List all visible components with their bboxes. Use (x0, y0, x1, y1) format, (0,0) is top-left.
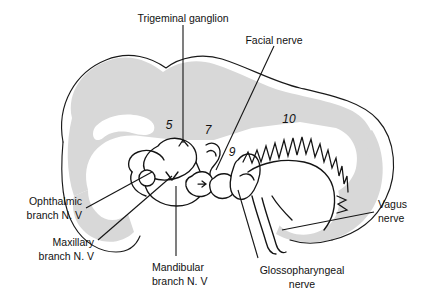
label-vagus-nerve-line1: Vagus (378, 198, 407, 210)
label-vagus-nerve-line2: nerve (378, 212, 404, 224)
glossopharyngeal-root (230, 154, 260, 199)
label-mandibular-branch-line1: Mandibular (152, 261, 204, 273)
label-facial-nerve: Facial nerve (245, 34, 302, 46)
cranial-nerve-diagram: Trigeminal ganglion Facial nerve Vagus n… (0, 0, 424, 307)
label-trigeminal-ganglion: Trigeminal ganglion (137, 12, 228, 24)
label-glossopharyngeal-line1: Glossopharyngeal (260, 264, 345, 276)
nerve-number-5: 5 (166, 118, 173, 132)
leader-maxillary-branch (98, 176, 172, 240)
brain-gray-shading-lower-left (73, 190, 134, 242)
label-mandibular-branch-line2: branch N. V (152, 275, 207, 287)
label-maxillary-branch-line1: Maxillary (53, 236, 95, 248)
nerve-number-9: 9 (229, 145, 236, 159)
label-maxillary-branch-line2: branch N. V (39, 250, 94, 262)
label-ophthalmic-branch-line2: branch N. V (27, 209, 82, 221)
anatomical-figure: Trigeminal ganglion Facial nerve Vagus n… (0, 0, 424, 307)
leader-ophthalmic-branch (86, 172, 152, 208)
leader-glossopharyngeal-nerve (238, 190, 258, 258)
label-ophthalmic-branch-line1: Ophthalmic (29, 195, 82, 207)
label-glossopharyngeal-line2: nerve (289, 278, 315, 290)
nerve-number-10: 10 (282, 112, 296, 126)
